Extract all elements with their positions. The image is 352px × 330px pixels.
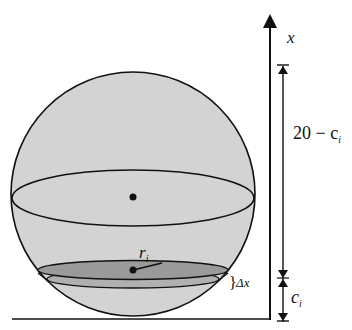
dim-arrow-mid-down — [278, 270, 288, 278]
dim-arrow-bottom — [278, 313, 288, 321]
lower-dimension-label: ci — [291, 287, 302, 309]
sphere-diagram: ri } Δx x 20 − ci ci — [0, 0, 352, 330]
upper-dimension-label: 20 − ci — [293, 123, 341, 145]
x-axis-arrowhead — [263, 14, 277, 28]
dim-arrow-top — [278, 66, 288, 74]
x-axis-label: x — [286, 28, 295, 47]
dim-arrow-mid-up — [278, 279, 288, 287]
thickness-label: Δx — [235, 275, 250, 290]
center-point — [130, 194, 137, 201]
